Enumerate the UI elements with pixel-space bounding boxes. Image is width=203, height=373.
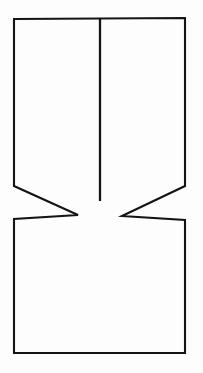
figure-canvas: [0, 0, 203, 373]
drawing-background: [0, 0, 203, 373]
line-drawing-svg: [0, 0, 203, 373]
